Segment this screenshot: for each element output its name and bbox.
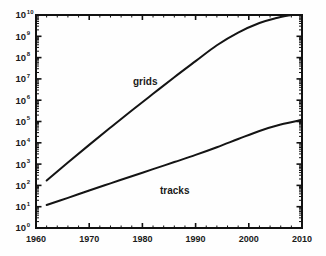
y-axis-tick-exponent: 7	[27, 73, 31, 79]
y-axis-tick-label: 10	[15, 180, 26, 191]
y-axis-tick-exponent: 10	[27, 9, 34, 15]
x-axis-tick-labels: 196019701980199020002010	[26, 234, 312, 244]
x-axis-tick-label: 1970	[79, 234, 99, 244]
y-axis-tick-labels: 1001011021031041051061071081091010	[15, 9, 34, 234]
x-axis-tick-label: 1990	[186, 234, 206, 244]
y-axis-tick-label: 10	[15, 137, 26, 148]
series-annotation-grids: grids	[133, 76, 158, 87]
y-axis-tick-label: 10	[15, 222, 26, 233]
y-axis-tick-label: 10	[15, 201, 26, 212]
y-axis-tick-exponent: 4	[27, 137, 31, 143]
y-axis-tick-label: 10	[15, 95, 26, 106]
y-axis-tick-exponent: 1	[27, 201, 31, 207]
y-axis-tick-label: 10	[15, 116, 26, 127]
y-axis-tick-label: 10	[15, 73, 26, 84]
log-line-chart: 1001011021031041051061071081091010 19601…	[0, 0, 326, 256]
y-axis-tick-label: 10	[15, 31, 26, 42]
y-axis-tick-label: 10	[15, 52, 26, 63]
x-axis-tick-label: 2000	[239, 234, 259, 244]
y-axis-tick-exponent: 3	[27, 158, 31, 164]
x-axis-tick-label: 1960	[26, 234, 46, 244]
series-annotation-tracks: tracks	[160, 185, 190, 196]
x-axis-tick-label: 2010	[292, 234, 312, 244]
y-axis-tick-label: 10	[15, 9, 26, 20]
y-axis-tick-exponent: 8	[27, 51, 31, 57]
y-axis-tick-exponent: 6	[27, 94, 31, 100]
y-axis-tick-exponent: 9	[27, 30, 31, 36]
chart-container: 1001011021031041051061071081091010 19601…	[0, 0, 326, 256]
y-axis-tick-label: 10	[15, 159, 26, 170]
y-axis-tick-exponent: 5	[27, 115, 31, 121]
y-axis-tick-exponent: 2	[27, 179, 31, 185]
series-line-grids	[47, 15, 292, 180]
x-axis-tick-label: 1980	[132, 234, 152, 244]
y-axis-tick-exponent: 0	[27, 222, 31, 228]
